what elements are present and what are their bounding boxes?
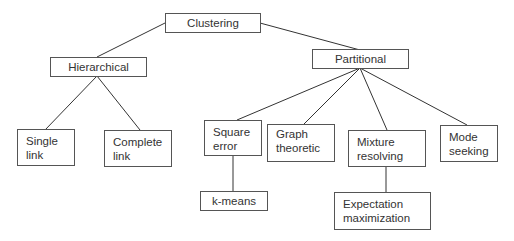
edge-hierarchical-single-link [45,76,97,130]
node-complete-link-line2: link [113,149,171,163]
node-mode-seeking-line2: seeking [449,144,497,158]
node-partitional-label: Partitional [335,52,386,66]
node-single-link-line1: Single [26,134,74,148]
node-square-error-line2: error [213,139,261,153]
edge-partitional-mixture-resolving [360,68,387,130]
edge-clustering-partitional [260,23,360,50]
node-graph-theoretic-line1: Graph [276,127,334,141]
edge-hierarchical-complete-link [97,76,140,130]
node-mode-seeking: Mode seeking [440,125,498,162]
node-graph-theoretic-line2: theoretic [276,141,334,155]
node-k-means: k-means [200,191,268,211]
edge-clustering-hierarchical [97,23,165,57]
node-expectation-maximization-line1: Expectation [343,197,430,211]
node-expectation-maximization-line2: maximization [343,211,430,225]
node-complete-link-line1: Complete [113,135,171,149]
node-single-link-line2: link [26,148,74,162]
node-mixture-resolving-line1: Mixture [357,135,425,149]
node-mixture-resolving-line2: resolving [357,149,425,163]
node-square-error-line1: Square [213,125,261,139]
node-expectation-maximization: Expectation maximization [334,192,431,230]
clustering-taxonomy-diagram: Clustering Hierarchical Partitional Sing… [0,0,514,241]
node-partitional: Partitional [312,49,409,69]
node-complete-link: Complete link [104,130,172,167]
node-hierarchical-label: Hierarchical [68,60,129,74]
node-single-link: Single link [17,129,75,166]
edge-partitional-square-error [237,68,360,120]
node-mixture-resolving: Mixture resolving [348,130,426,167]
node-clustering: Clustering [165,13,261,33]
node-mode-seeking-line1: Mode [449,130,497,144]
node-clustering-label: Clustering [187,16,239,30]
node-hierarchical: Hierarchical [50,57,147,77]
node-k-means-label: k-means [212,194,256,208]
node-square-error: Square error [204,120,262,156]
edge-partitional-mode-seeking [360,68,467,125]
edge-partitional-graph-theoretic [304,68,360,124]
node-graph-theoretic: Graph theoretic [267,124,335,162]
